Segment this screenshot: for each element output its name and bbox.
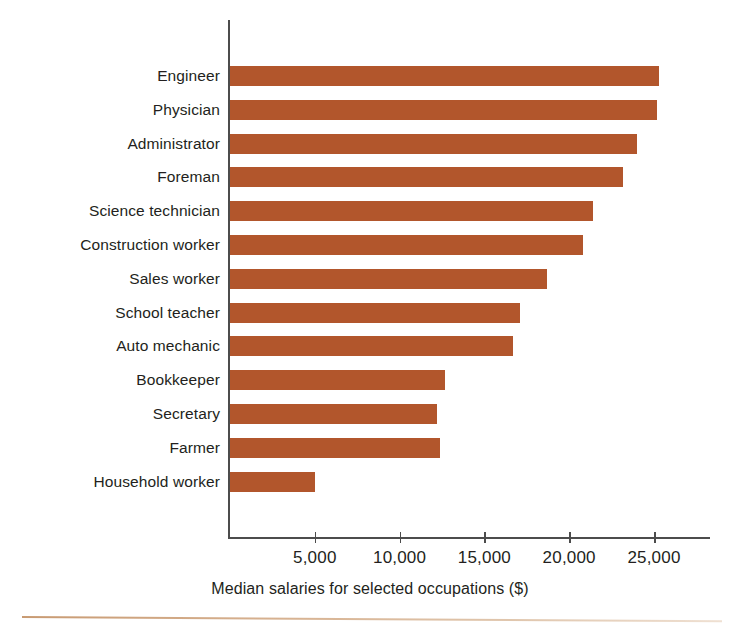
- chart-caption: Median salaries for selected occupations…: [0, 580, 740, 598]
- bar-category-label: Construction worker: [0, 234, 220, 256]
- plot-area: EngineerPhysicianAdministratorForemanSci…: [0, 0, 740, 642]
- bar: [230, 404, 437, 424]
- x-tick-mark: [569, 532, 571, 543]
- bar-row: Administrator: [0, 133, 740, 155]
- bar-row: Auto mechanic: [0, 335, 740, 357]
- bar-row: Secretary: [0, 403, 740, 425]
- bar: [230, 303, 520, 323]
- bar: [230, 201, 593, 221]
- bar: [230, 336, 513, 356]
- bar: [230, 66, 659, 86]
- bar-row: Engineer: [0, 65, 740, 87]
- x-tick-mark: [654, 532, 656, 543]
- bar-category-label: Farmer: [0, 437, 220, 459]
- bar-category-label: Bookkeeper: [0, 369, 220, 391]
- bar-row: Physician: [0, 99, 740, 121]
- x-axis-ticks: 5,00010,00015,00020,00025,000: [0, 537, 740, 577]
- bar: [230, 370, 445, 390]
- bar: [230, 100, 657, 120]
- x-tick-mark: [484, 532, 486, 543]
- bar-row: School teacher: [0, 302, 740, 324]
- x-tick-label: 25,000: [594, 548, 714, 568]
- bar-category-label: Physician: [0, 99, 220, 121]
- bar: [230, 134, 637, 154]
- bar-category-label: School teacher: [0, 302, 220, 324]
- bar-row: Bookkeeper: [0, 369, 740, 391]
- bar: [230, 438, 440, 458]
- bar-category-label: Administrator: [0, 133, 220, 155]
- bar-category-label: Foreman: [0, 166, 220, 188]
- x-tick-mark: [315, 532, 317, 543]
- bar-row: Science technician: [0, 200, 740, 222]
- bar: [230, 269, 547, 289]
- median-salaries-bar-chart: EngineerPhysicianAdministratorForemanSci…: [0, 0, 740, 642]
- bar-category-label: Engineer: [0, 65, 220, 87]
- bar: [230, 235, 583, 255]
- bar-category-label: Auto mechanic: [0, 335, 220, 357]
- bar-row: Sales worker: [0, 268, 740, 290]
- bar: [230, 167, 623, 187]
- bar-category-label: Secretary: [0, 403, 220, 425]
- bar: [230, 472, 315, 492]
- bar-row: Farmer: [0, 437, 740, 459]
- bar-series: EngineerPhysicianAdministratorForemanSci…: [0, 0, 740, 538]
- bar-row: Construction worker: [0, 234, 740, 256]
- bar-category-label: Sales worker: [0, 268, 220, 290]
- bar-category-label: Household worker: [0, 471, 220, 493]
- x-tick-mark: [400, 532, 402, 543]
- bar-category-label: Science technician: [0, 200, 220, 222]
- bar-row: Foreman: [0, 166, 740, 188]
- bar-row: Household worker: [0, 471, 740, 493]
